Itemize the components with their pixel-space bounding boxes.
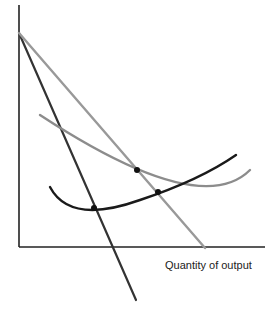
grey-straight-line <box>19 33 205 248</box>
x-axis-label: Quantity of output <box>165 259 252 271</box>
black-rising-curve <box>50 155 236 210</box>
intersection-dot-2 <box>155 189 161 195</box>
intersection-dot-3 <box>91 205 97 211</box>
steep-dark-line <box>19 33 136 300</box>
intersection-dot-1 <box>134 167 140 173</box>
